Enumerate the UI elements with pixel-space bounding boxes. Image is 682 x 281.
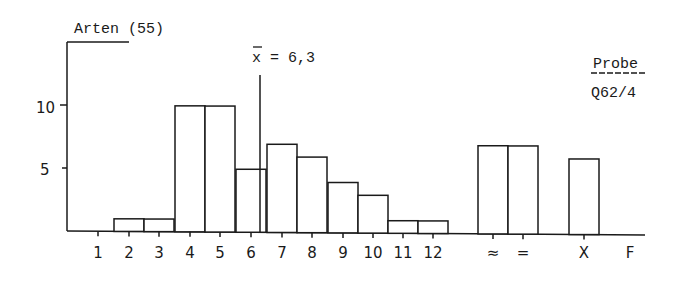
histogram-chart: Arten (55) 10 5 123456789101112≈=XF x = … <box>0 0 682 281</box>
x-label: 12 <box>423 244 442 262</box>
bar-12 <box>418 221 448 234</box>
bar-2 <box>114 219 144 232</box>
x-label: ≈ <box>487 244 500 262</box>
x-label: 8 <box>307 244 317 262</box>
bar-= <box>508 146 538 234</box>
x-label: 9 <box>338 244 348 262</box>
chart-title: Arten (55) <box>74 21 164 38</box>
x-label: 2 <box>124 244 134 262</box>
sample-id: Q62/4 <box>591 85 636 102</box>
x-label: 11 <box>393 244 412 262</box>
x-label: 1 <box>93 244 103 262</box>
probe-label: Probe <box>593 56 638 73</box>
x-label: 6 <box>246 244 256 262</box>
bar-7 <box>267 144 297 232</box>
x-ticks: 123456789101112≈=XF <box>93 231 634 262</box>
bar-X <box>569 159 599 235</box>
x-label: 7 <box>277 244 287 262</box>
bar-5 <box>205 106 235 232</box>
bar-≈ <box>478 146 508 234</box>
y-label-10: 10 <box>36 99 55 117</box>
x-label: 5 <box>215 244 225 262</box>
bar-4 <box>175 106 205 232</box>
bar-10 <box>358 195 388 233</box>
bar-3 <box>144 219 174 232</box>
bar-11 <box>388 221 418 234</box>
x-label: 10 <box>363 244 382 262</box>
x-label: F <box>626 244 635 262</box>
x-label: 3 <box>154 244 164 262</box>
y-label-5: 5 <box>40 161 50 179</box>
x-label: = <box>517 244 530 262</box>
bars <box>114 106 599 235</box>
x-label: 4 <box>185 244 195 262</box>
mean-label: x = 6,3 <box>252 50 315 67</box>
bar-9 <box>328 183 358 233</box>
x-label: X <box>579 244 589 262</box>
bar-8 <box>297 157 327 233</box>
bar-6 <box>236 169 266 232</box>
